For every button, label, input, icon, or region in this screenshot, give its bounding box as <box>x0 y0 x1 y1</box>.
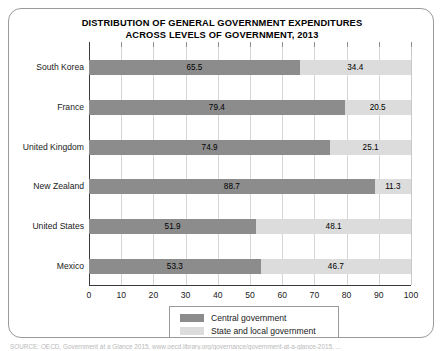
tick-mark-30 <box>186 42 187 47</box>
legend-item-local: State and local government <box>170 324 338 337</box>
tick-mark-40 <box>218 42 219 47</box>
bar-segment-central: 65.5 <box>89 60 300 75</box>
x-tick-label-100: 100 <box>391 290 431 300</box>
tick-mark-20 <box>153 42 154 47</box>
bar-segment-central: 51.9 <box>89 219 256 234</box>
tick-mark-100 <box>411 42 412 47</box>
plot-area: South Korea65.534.4France79.420.5United … <box>89 47 411 285</box>
gridline-90 <box>379 47 380 285</box>
gridline-100 <box>411 47 412 285</box>
bar-segment-local: 20.5 <box>345 100 411 115</box>
gridline-80 <box>347 47 348 285</box>
bar-segment-central: 74.9 <box>89 140 330 155</box>
bar-row: France79.420.5 <box>89 100 411 115</box>
tick-mark-50 <box>250 42 251 47</box>
category-label: France <box>8 100 84 115</box>
bar-row: United States51.948.1 <box>89 219 411 234</box>
legend-label-central: Central government <box>211 313 286 323</box>
gridline-20 <box>153 47 154 285</box>
bar-segment-central: 53.3 <box>89 259 261 274</box>
gridline-60 <box>282 47 283 285</box>
bar-segment-local: 46.7 <box>261 259 411 274</box>
chart-title: DISTRIBUTION OF GENERAL GOVERNMENT EXPEN… <box>9 18 434 41</box>
bar-segment-local: 34.4 <box>300 60 411 75</box>
bar-segment-local: 11.3 <box>375 179 411 194</box>
gridline-30 <box>186 47 187 285</box>
bar-segment-central: 79.4 <box>89 100 345 115</box>
bar-row: United Kingdom74.925.1 <box>89 140 411 155</box>
tick-mark-80 <box>347 42 348 47</box>
tick-mark-90 <box>379 42 380 47</box>
bar-row: New Zealand88.711.3 <box>89 179 411 194</box>
chart-title-line-2: ACROSS LEVELS OF GOVERNMENT, 2013 <box>9 30 434 42</box>
chart-legend: Central government State and local gover… <box>169 306 339 338</box>
legend-label-local: State and local government <box>211 326 316 336</box>
tick-mark-70 <box>314 42 315 47</box>
bar-segment-local: 25.1 <box>330 140 411 155</box>
category-label: United States <box>8 219 84 234</box>
bar-row: South Korea65.534.4 <box>89 60 411 75</box>
gridline-50 <box>250 47 251 285</box>
gridline-70 <box>314 47 315 285</box>
legend-swatch-local-icon <box>180 327 204 335</box>
chart-card: DISTRIBUTION OF GENERAL GOVERNMENT EXPEN… <box>8 8 434 338</box>
source-note: SOURCE: OECD, Government at a Glance 201… <box>10 343 442 350</box>
legend-swatch-central-icon <box>180 314 204 322</box>
category-label: New Zealand <box>8 179 84 194</box>
chart-title-line-1: DISTRIBUTION OF GENERAL GOVERNMENT EXPEN… <box>9 18 434 30</box>
category-label: South Korea <box>8 60 84 75</box>
bar-segment-central: 88.7 <box>89 179 375 194</box>
gridline-10 <box>121 47 122 285</box>
legend-item-central: Central government <box>170 311 338 324</box>
x-axis-line <box>89 285 411 286</box>
bar-segment-local: 48.1 <box>256 219 411 234</box>
y-axis-line <box>89 42 90 285</box>
tick-mark-60 <box>282 42 283 47</box>
tick-mark-10 <box>121 42 122 47</box>
category-label: United Kingdom <box>8 140 84 155</box>
category-label: Mexico <box>8 259 84 274</box>
gridline-40 <box>218 47 219 285</box>
bar-row: Mexico53.346.7 <box>89 259 411 274</box>
